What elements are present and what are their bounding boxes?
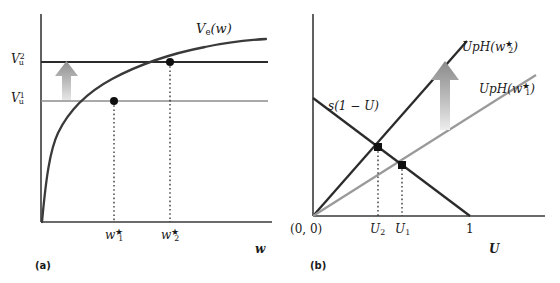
- equilibrium-point-u2: [374, 143, 382, 151]
- x-tick-label-one: 1: [466, 223, 474, 235]
- line-label-uph-w1: UpH(w★1): [479, 82, 535, 97]
- y-tick-label-vu1: V1u: [11, 92, 24, 106]
- panel-b-plot: [280, 0, 560, 283]
- x-tick-label-w2: w★2: [161, 228, 179, 243]
- origin-label: (0, 0): [290, 223, 322, 235]
- up-arrow-icon: [431, 61, 459, 130]
- panel-a: Ve(w) V2u V1u w★1 w★2 w (a): [0, 0, 280, 283]
- x-tick-label-w1: w★1: [105, 228, 123, 243]
- line-label-separation: s(1 − U): [328, 100, 379, 112]
- panel-b: UpH(w★2) UpH(w★1) s(1 − U) (0, 0) U2 U1 …: [280, 0, 560, 283]
- x-tick-label-u2: U2: [370, 223, 385, 237]
- equilibrium-point-u1: [398, 161, 406, 169]
- panel-caption-a: (a): [35, 261, 51, 271]
- panel-caption-b: (b): [310, 261, 326, 271]
- two-panel-figure: Ve(w) V2u V1u w★1 w★2 w (a): [0, 0, 560, 283]
- y-tick-label-vu2: V2u: [11, 53, 24, 67]
- panel-a-plot: [0, 0, 280, 283]
- x-tick-label-u1: U1: [395, 223, 410, 237]
- equilibrium-point-1: [110, 97, 118, 105]
- up-arrow-icon: [55, 61, 78, 100]
- equilibrium-point-2: [166, 58, 174, 66]
- curve-label-ve: Ve(w): [196, 22, 232, 37]
- effort-curve: [42, 39, 266, 222]
- line-label-uph-w2: UpH(w★2): [462, 40, 518, 55]
- x-axis-label-u: U: [489, 243, 499, 255]
- x-axis-label-w: w: [255, 243, 265, 255]
